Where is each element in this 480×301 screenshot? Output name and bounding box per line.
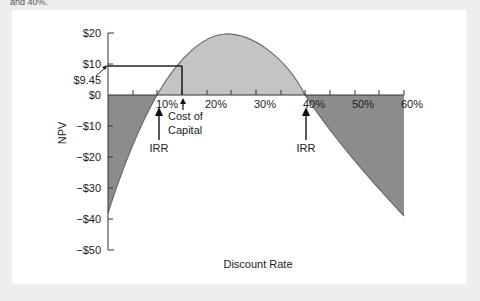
y-tick: $10 <box>83 58 101 70</box>
x-axis-title: Discount Rate <box>223 258 292 270</box>
arrow-up-icon <box>180 98 186 104</box>
y-tick: −$40 <box>76 213 101 225</box>
x-tick: 30% <box>254 98 276 110</box>
x-tick: 60% <box>401 98 423 110</box>
y-tick: −$20 <box>76 151 101 163</box>
y-tick: −$10 <box>76 120 101 132</box>
irr-label-left: IRR <box>150 142 169 154</box>
x-tick: 50% <box>352 98 374 110</box>
negative-area-left <box>108 95 157 213</box>
y-tick: −$50 <box>76 244 101 256</box>
y-tick: $0 <box>89 89 101 101</box>
y-axis-title: NPV <box>56 121 68 144</box>
negative-area-right <box>305 95 404 216</box>
positive-area <box>157 34 305 95</box>
cost-of-capital-label-line1: Cost of <box>168 110 204 122</box>
irr-label-right: IRR <box>297 142 316 154</box>
y-tick: $20 <box>83 27 101 39</box>
cost-of-capital-label-line2: Capital <box>168 124 202 136</box>
y-annotation-9-45: $9.45 <box>73 74 101 86</box>
npv-profile-chart: $20 $10 $9.45 $0 −$10 −$20 −$30 −$40 −$5… <box>0 0 480 301</box>
x-tick: 20% <box>205 98 227 110</box>
y-tick: −$30 <box>76 182 101 194</box>
